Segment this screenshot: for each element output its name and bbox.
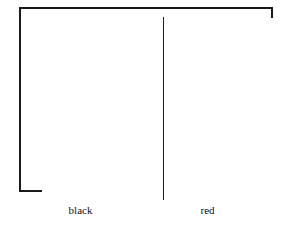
panel-frame xyxy=(19,7,273,192)
panel-divider-line xyxy=(163,17,164,200)
panel-caption-red: red xyxy=(142,203,273,217)
figure-container: black red xyxy=(0,0,285,225)
panel-cell-black xyxy=(42,18,163,199)
panel-caption-black: black xyxy=(19,203,142,217)
panel-cell-red xyxy=(164,18,285,199)
